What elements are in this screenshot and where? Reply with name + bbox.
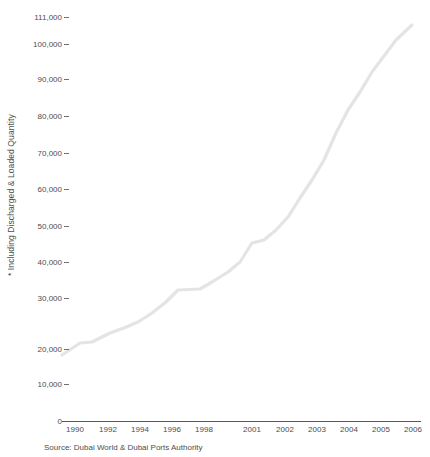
y-tick-text: 40,000 [38, 258, 62, 267]
y-tick-text: 60,000 [38, 185, 62, 194]
y-tick-mark [64, 298, 69, 299]
y-tick-text: 50,000 [38, 222, 62, 231]
y-tick-text: 111,000 [34, 13, 62, 22]
data-series-line [62, 25, 412, 355]
y-tick-mark [64, 349, 69, 350]
y-tick-text: 10,000 [38, 380, 62, 389]
y-tick-mark [64, 189, 69, 190]
x-axis-line [62, 421, 421, 422]
y-tick-mark [64, 153, 69, 154]
y-tick-text: 70,000 [38, 149, 62, 158]
source-note: Source: Dubai World & Dubai Ports Author… [44, 443, 203, 452]
x-tick-label: 1998 [184, 425, 224, 434]
x-tick-label: 2006 [393, 425, 430, 434]
y-tick-mark [64, 44, 69, 45]
y-tick-text: 100,000 [33, 40, 62, 49]
y-tick-mark [64, 262, 69, 263]
y-tick-mark [64, 17, 69, 18]
y-tick-mark [64, 116, 69, 117]
y-tick-text: 80,000 [38, 112, 62, 121]
chart-container: * Including Discharged & Loaded Quantity… [0, 0, 430, 457]
line-plot [0, 0, 430, 457]
y-tick-text: 90,000 [38, 75, 62, 84]
y-tick-text: 20,000 [38, 345, 62, 354]
y-tick-mark [64, 384, 69, 385]
y-tick-text: 30,000 [38, 294, 62, 303]
y-tick-mark [64, 226, 69, 227]
y-tick-mark [64, 79, 69, 80]
